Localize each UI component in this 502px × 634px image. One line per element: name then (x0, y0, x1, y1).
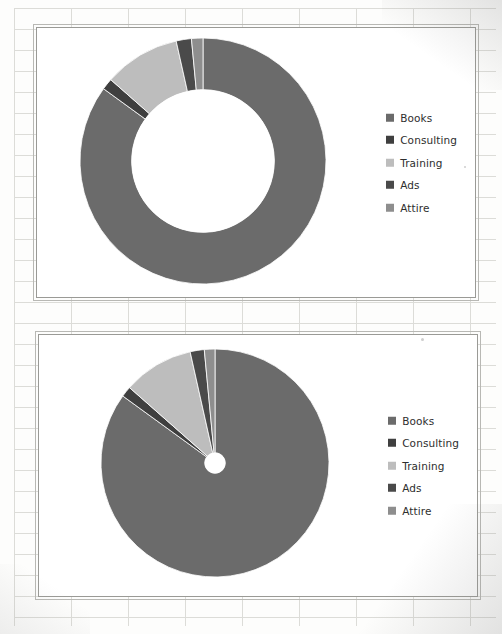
legend-item[interactable]: Ads (386, 180, 457, 191)
legend-item[interactable]: Ads (388, 483, 459, 494)
pie-legend: BooksConsultingTrainingAdsAttire (388, 415, 459, 516)
legend-swatch-icon (388, 462, 396, 470)
legend-item-label: Books (400, 112, 432, 123)
legend-item-label: Attire (400, 202, 429, 213)
legend-swatch-icon (386, 114, 394, 122)
doughnut-svg (37, 28, 367, 297)
legend-item-label: Ads (400, 180, 419, 191)
legend-swatch-icon (388, 439, 396, 447)
legend-item-label: Consulting (402, 438, 459, 449)
grid-line-horizontal (14, 323, 496, 324)
legend-item-label: Training (402, 460, 444, 471)
legend-item[interactable]: Books (386, 112, 457, 123)
legend-item-label: Consulting (400, 135, 457, 146)
legend-swatch-icon (386, 204, 394, 212)
scan-speck (421, 338, 424, 341)
legend-swatch-icon (388, 484, 396, 492)
legend-item-label: Attire (402, 505, 431, 516)
pie-plot-area (39, 335, 369, 596)
grid-line-horizontal (14, 617, 496, 618)
legend-swatch-icon (386, 181, 394, 189)
doughnut-hole (205, 453, 226, 474)
legend-item-label: Training (400, 157, 442, 168)
legend-item-label: Books (402, 415, 434, 426)
legend-item[interactable]: Training (388, 460, 459, 471)
legend-swatch-icon (388, 507, 396, 515)
legend-item[interactable]: Training (386, 157, 457, 168)
doughnut-legend: BooksConsultingTrainingAdsAttire (386, 112, 457, 213)
legend-item[interactable]: Attire (388, 505, 459, 516)
legend-item-label: Ads (402, 483, 421, 494)
legend-swatch-icon (386, 159, 394, 167)
scanned-page: BooksConsultingTrainingAdsAttire BooksCo… (0, 0, 502, 634)
grid-line-horizontal (14, 302, 496, 303)
legend-swatch-icon (386, 136, 394, 144)
legend-item[interactable]: Consulting (386, 135, 457, 146)
legend-item[interactable]: Books (388, 415, 459, 426)
legend-item[interactable]: Consulting (388, 438, 459, 449)
legend-swatch-icon (388, 417, 396, 425)
doughnut-plot-area (37, 28, 367, 297)
grid-line-horizontal (14, 8, 496, 9)
doughnut-chart-object[interactable]: BooksConsultingTrainingAdsAttire (36, 27, 476, 298)
doughnut-hole (132, 90, 275, 233)
pie-chart-object[interactable]: BooksConsultingTrainingAdsAttire (38, 334, 478, 597)
scan-speck (464, 166, 466, 168)
legend-item[interactable]: Attire (386, 202, 457, 213)
pie-svg (39, 335, 369, 596)
